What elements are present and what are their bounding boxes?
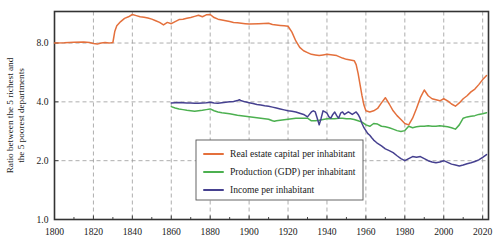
- y-axis-title: Ratio between the 5 richest andthe 5 poo…: [5, 57, 26, 173]
- y-tick-label: 2.0: [37, 155, 49, 166]
- legend-label: Income per inhabitant: [230, 184, 315, 195]
- y-axis-title-line: the 5 poorest departments: [16, 68, 26, 163]
- chart-figure: Ratio between the 5 richest andthe 5 poo…: [0, 0, 503, 251]
- ratio-line-chart: Ratio between the 5 richest andthe 5 poo…: [0, 0, 503, 251]
- x-tick-label: 1820: [84, 226, 103, 237]
- x-tick-label: 1900: [240, 226, 259, 237]
- x-tick-label: 1980: [395, 226, 414, 237]
- x-tick-label: 1940: [317, 226, 336, 237]
- x-tick-label: 1960: [356, 226, 375, 237]
- chart-legend: Real estate capital per inhabitantProduc…: [196, 140, 363, 200]
- legend-label: Real estate capital per inhabitant: [230, 148, 356, 159]
- y-tick-label: 1.0: [37, 214, 49, 225]
- y-tick-label: 8.0: [37, 37, 49, 48]
- x-tick-label: 2000: [434, 226, 453, 237]
- legend-label: Production (GDP) per inhabitant: [230, 166, 356, 178]
- y-axis-title-line: Ratio between the 5 richest and: [5, 57, 15, 173]
- x-tick-label: 1840: [123, 226, 142, 237]
- x-tick-label: 1860: [162, 226, 181, 237]
- x-tick-label: 1880: [201, 226, 220, 237]
- x-tick-label: 1920: [278, 226, 297, 237]
- x-tick-label: 2020: [473, 226, 492, 237]
- y-tick-label: 4.0: [37, 96, 49, 107]
- x-tick-label: 1800: [45, 226, 64, 237]
